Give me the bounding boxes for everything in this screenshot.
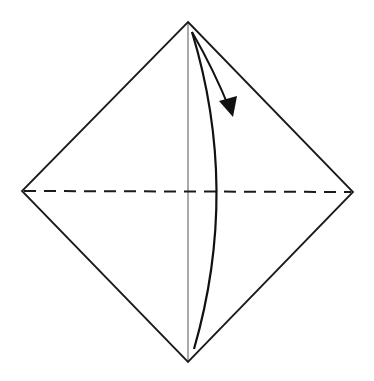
origami-diagram	[0, 0, 374, 381]
